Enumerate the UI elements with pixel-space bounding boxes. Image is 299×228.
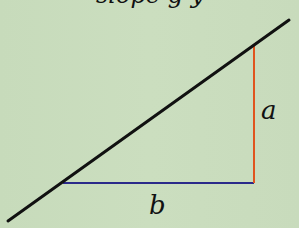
label-a: a [261,97,277,123]
label-b: b [149,192,166,218]
slope-diagram: slope g y a b [0,0,299,228]
